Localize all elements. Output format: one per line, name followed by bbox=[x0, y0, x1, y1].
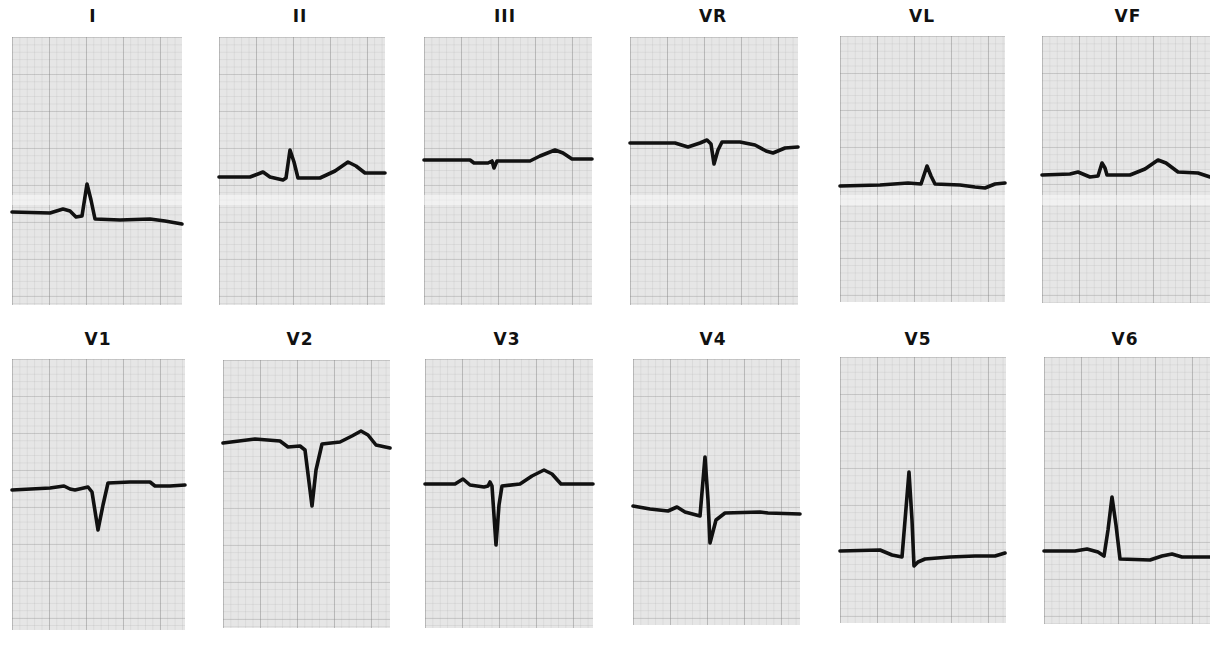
ecg-trace-v5 bbox=[840, 472, 1005, 566]
ecg-trace-v4 bbox=[633, 457, 800, 543]
ecg-traces-layer bbox=[0, 0, 1210, 649]
ecg-trace-vr bbox=[630, 140, 798, 164]
ecg-trace-i bbox=[12, 184, 182, 224]
ecg-trace-iii bbox=[424, 150, 592, 168]
ecg-trace-vf bbox=[1042, 160, 1210, 177]
ecg-trace-v2 bbox=[223, 431, 390, 506]
ecg-trace-v3 bbox=[425, 470, 593, 545]
ecg-trace-v6 bbox=[1044, 497, 1210, 560]
ecg-trace-ii bbox=[219, 150, 385, 180]
ecg-trace-vl bbox=[840, 166, 1005, 188]
ecg-trace-v1 bbox=[12, 482, 185, 530]
